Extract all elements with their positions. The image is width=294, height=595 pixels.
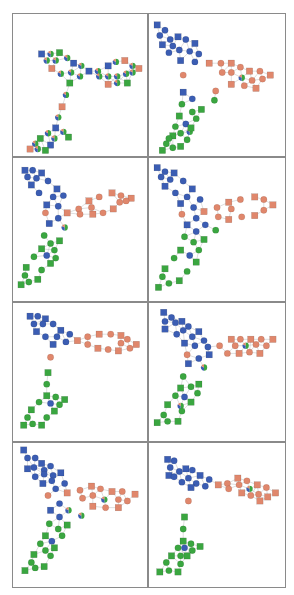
blue-circle-node (63, 339, 69, 345)
mixed-label-node (55, 114, 61, 120)
salmon-circle-node (115, 496, 121, 502)
salmon-square-node (95, 345, 101, 351)
blue-circle-node (44, 252, 50, 258)
green-circle-node (194, 390, 200, 396)
green-circle-node (31, 254, 37, 260)
panel-plot-area (148, 442, 286, 588)
blue-square-node (177, 57, 183, 63)
blue-circle-node (201, 337, 207, 343)
green-circle-node (41, 232, 47, 238)
blue-circle-node (29, 167, 35, 173)
blue-circle-node (197, 196, 203, 202)
green-circle-node (32, 565, 38, 571)
salmon-square-node (206, 60, 212, 66)
salmon-square-node (109, 488, 115, 494)
blue-circle-node (205, 344, 211, 350)
blue-circle-node (50, 194, 56, 200)
blue-circle-node (196, 355, 202, 361)
blue-circle-node (67, 331, 73, 337)
blue-circle-node (31, 464, 37, 470)
graph-nodes (154, 309, 276, 426)
green-circle-node (190, 239, 196, 245)
salmon-circle-node (45, 492, 51, 498)
blue-circle-node (206, 476, 212, 482)
salmon-circle-node (124, 498, 130, 504)
green-circle-node (24, 414, 30, 420)
blue-square-node (159, 42, 165, 48)
scatter-panel-6 (148, 302, 286, 442)
blue-circle-node (42, 334, 48, 340)
mixed-label-node (105, 73, 111, 79)
blue-circle-node (172, 190, 178, 196)
salmon-square-node (226, 216, 232, 222)
salmon-circle-node (237, 336, 243, 342)
blue-square-node (38, 51, 44, 57)
salmon-square-node (96, 331, 102, 337)
green-square-node (37, 135, 43, 141)
blue-circle-node (55, 215, 61, 221)
blue-square-node (181, 340, 187, 346)
green-square-node (175, 418, 181, 424)
blue-square-node (196, 328, 202, 334)
green-circle-node (166, 567, 172, 573)
salmon-circle-node (216, 343, 222, 349)
mixed-label-node (123, 71, 129, 77)
green-square-node (22, 567, 28, 573)
green-square-node (154, 419, 160, 425)
salmon-circle-node (100, 210, 106, 216)
green-square-node (42, 147, 48, 153)
salmon-circle-node (257, 68, 263, 74)
salmon-circle-node (263, 343, 269, 349)
salmon-square-node (115, 504, 121, 510)
salmon-circle-node (116, 199, 122, 205)
blue-square-node (86, 68, 92, 74)
salmon-circle-node (214, 204, 220, 210)
salmon-circle-node (263, 484, 269, 490)
blue-circle-node (50, 321, 56, 327)
salmon-circle-node (248, 492, 254, 498)
salmon-circle-node (180, 72, 186, 78)
salmon-square-node (253, 85, 259, 91)
green-square-node (197, 543, 203, 549)
salmon-square-node (90, 211, 96, 217)
blue-square-node (154, 164, 160, 170)
green-circle-node (36, 399, 42, 405)
green-circle-node (188, 384, 194, 390)
blue-circle-node (181, 394, 187, 400)
salmon-square-node (235, 475, 241, 481)
salmon-square-node (252, 194, 258, 200)
blue-circle-node (55, 203, 61, 209)
panel-plot-area (12, 302, 148, 442)
blue-circle-node (47, 400, 53, 406)
mixed-label-node (51, 135, 57, 141)
blue-square-node (44, 202, 50, 208)
blue-square-node (105, 63, 111, 69)
blue-circle-node (40, 321, 46, 327)
blue-circle-node (185, 475, 191, 481)
blue-circle-node (162, 318, 168, 324)
green-circle-node (179, 101, 185, 107)
green-circle-node (181, 234, 187, 240)
green-square-node (124, 80, 130, 86)
green-circle-node (163, 559, 169, 565)
green-square-node (157, 569, 163, 575)
green-square-node (198, 106, 204, 112)
green-circle-node (29, 421, 35, 427)
green-circle-node (189, 109, 195, 115)
graph-nodes (154, 22, 274, 154)
salmon-circle-node (236, 482, 242, 488)
green-square-node (201, 236, 207, 242)
salmon-square-node (115, 348, 121, 354)
blue-circle-node (192, 343, 198, 349)
blue-circle-node (24, 455, 30, 461)
graph-edges (157, 312, 273, 422)
green-circle-node (26, 279, 32, 285)
salmon-circle-node (226, 486, 232, 492)
blue-square-node (183, 466, 189, 472)
salmon-circle-node (232, 343, 238, 349)
salmon-square-node (252, 212, 258, 218)
blue-circle-node (193, 228, 199, 234)
salmon-circle-node (79, 495, 85, 501)
blue-square-node (180, 89, 186, 95)
green-square-node (67, 80, 73, 86)
